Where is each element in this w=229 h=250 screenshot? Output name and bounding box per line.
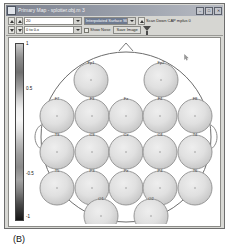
component-combo[interactable]: 20 [24,17,82,25]
electrode-label-fz: Fz [124,97,128,101]
page-spinner-up[interactable] [16,17,23,25]
checkbox-box [84,28,89,33]
map-type-combo-value: Interpolated Surface Map [85,18,127,24]
page-spinner-down[interactable] [16,26,23,34]
triangle-up-icon [10,20,14,23]
status-text: Scan Down CAP mplus 0 [146,18,191,24]
colorbar-tick-0.5: 0.5 [26,86,32,91]
triangle-down-icon [10,29,14,32]
electrode-label-o1: O1 [98,197,103,201]
chevron-down-icon[interactable] [127,18,135,24]
electrode-label-t3: T3 [55,133,60,137]
toolbar: 20 Interpolated Surface Map Scan Down CA… [6,16,223,36]
electrode-label-f3: F3 [90,97,95,101]
triangle-down-icon [18,29,22,32]
electrode-label-p3: P3 [90,169,95,173]
electrode-blobs [40,63,212,224]
electrode-label-f8: F8 [193,97,198,101]
component-spinner-up[interactable] [8,17,15,25]
window-title: Primary Map - splotter.obj.m 3 [18,7,196,14]
primary-map-window: Primary Map - splotter.obj.m 3 – □ ✕ 20 [4,3,225,229]
electrode-label-t6: T6 [193,169,198,173]
colorbar-tick-1: 1 [26,41,29,46]
show-nose-checkbox[interactable]: Show Nose [84,27,110,33]
electrode-label-t4: T4 [193,133,198,137]
electrode-label-fp1: Fp1 [88,61,95,65]
window-title-bar[interactable]: Primary Map - splotter.obj.m 3 – □ ✕ [6,5,223,16]
head-map[interactable]: Fp1 Fp2 F7 F3 Fz F4 F8 T3 C3 Cz C4 T4 T5… [33,42,219,224]
close-button[interactable]: ✕ [214,7,222,15]
electrode-label-f7: F7 [55,97,60,101]
electrode-label-t5: T5 [55,169,60,173]
funnel-icon[interactable] [143,26,151,35]
scale-combo[interactable]: 0 to 0.x [24,26,82,34]
component-combo-value: 20 [25,18,73,24]
electrode-label-f4: F4 [158,97,163,101]
toolbar-row-bottom: 0 to 0.x Show Nose Save Image [8,26,153,34]
scale-combo-value: 0 to 0.x [25,27,73,33]
window-controls: – □ ✕ [196,7,222,15]
electrode-label-p4: P4 [158,169,163,173]
scale-spinner-up[interactable] [138,17,145,25]
chevron-down-icon[interactable] [73,18,81,24]
chevron-down-icon[interactable] [73,27,81,33]
screenshot-root: Primary Map - splotter.obj.m 3 – □ ✕ 20 [0,0,229,250]
component-spinner-down[interactable] [8,26,15,34]
map-window-icon [7,6,16,15]
mouse-pointer-icon [184,54,189,61]
map-type-combo[interactable]: Interpolated Surface Map [84,17,136,25]
minimize-button[interactable]: – [196,7,204,15]
electrode-label-cz: Cz [124,133,129,137]
colorbar-tick--1: -1 [26,214,30,219]
figure-caption: (B) [13,234,25,244]
maximize-button[interactable]: □ [205,7,213,15]
map-plot-panel: 1 0.5 -0.5 -1 [8,37,221,227]
show-nose-label: Show Nose [90,27,110,33]
electrode-label-c3: C3 [89,133,94,137]
electrode-label-o2: O2 [148,197,153,201]
triangle-up-icon [140,20,144,23]
save-image-button[interactable]: Save Image [113,26,140,34]
colorbar [15,43,24,221]
toolbar-row-top: 20 Interpolated Surface Map Scan Down CA… [8,17,191,25]
triangle-up-icon [18,20,22,23]
electrode-label-fp2: Fp2 [158,61,165,65]
electrode-label-pz: Pz [124,169,129,173]
electrode-label-c4: C4 [157,133,162,137]
